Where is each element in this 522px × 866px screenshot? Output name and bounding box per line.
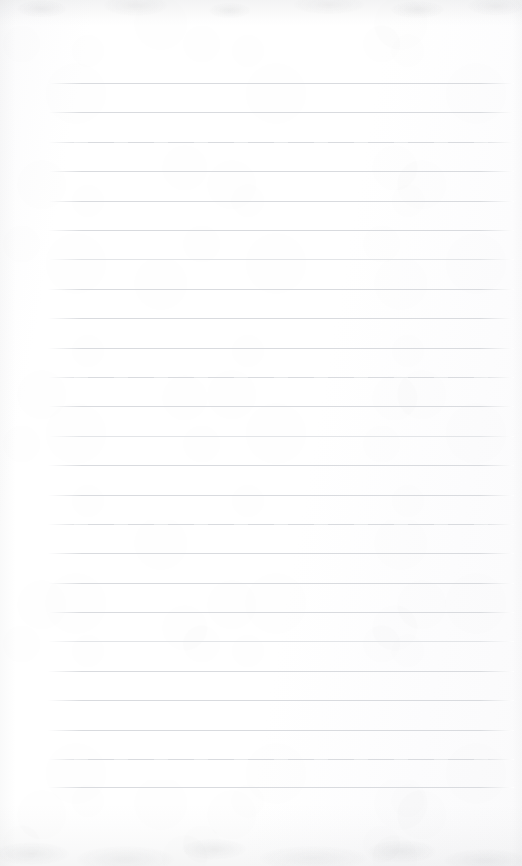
ruled-line — [48, 612, 514, 613]
ruled-lines-group — [0, 0, 522, 866]
ruled-line — [48, 142, 514, 143]
ruled-line — [48, 289, 514, 290]
ruled-line — [48, 553, 514, 554]
ruled-line — [48, 406, 514, 407]
ruled-line — [48, 318, 514, 319]
ruled-line — [48, 171, 514, 172]
ruled-line — [48, 112, 514, 113]
ruled-line — [48, 787, 514, 788]
top-edge-mottling — [0, 0, 522, 22]
ruled-line — [48, 583, 514, 584]
bottom-edge-mottling — [0, 810, 522, 866]
ruled-line — [48, 759, 514, 760]
ruled-line — [48, 436, 514, 437]
ruled-line — [48, 524, 514, 525]
ruled-line — [48, 495, 514, 496]
ruled-line — [48, 671, 514, 672]
ruled-line — [48, 641, 514, 642]
ruled-line — [48, 259, 514, 260]
ruled-line — [48, 465, 514, 466]
ruled-line — [48, 83, 514, 84]
ruled-line — [48, 348, 514, 349]
ruled-line — [48, 730, 514, 731]
ruled-line — [48, 230, 514, 231]
scanned-page — [0, 0, 522, 866]
ruled-line — [48, 201, 514, 202]
ruled-line — [48, 377, 514, 378]
ruled-line — [48, 700, 514, 701]
